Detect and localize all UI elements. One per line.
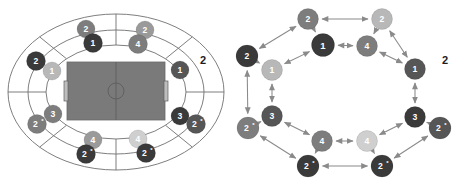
node-circle <box>262 60 283 81</box>
node-circle <box>372 9 393 30</box>
graph-edge-g8-g12 <box>285 122 310 134</box>
graph-edge-g2-g4 <box>374 31 375 34</box>
node-circle <box>312 34 335 57</box>
node-circle <box>28 115 47 134</box>
stadium-node-s15[interactable]: 2* <box>137 144 156 163</box>
stadium-panel: 212421132*32*42*42* 2 <box>0 0 232 185</box>
graph-edge-g9-g14 <box>260 136 296 158</box>
node-circle <box>371 155 393 177</box>
graph-node-g9[interactable]: 2* <box>237 117 259 139</box>
graph-node-g5[interactable]: 2 <box>236 45 258 67</box>
graph-edge-g5-g1 <box>259 26 296 48</box>
graph-edge-g1-g3 <box>315 31 316 32</box>
node-circle <box>77 145 96 164</box>
node-circle <box>357 36 378 57</box>
graph-node-g8[interactable]: 3 <box>262 106 283 127</box>
stadium-node-s13[interactable]: 2* <box>77 145 96 164</box>
stadium-free-labels: 2 <box>200 54 206 66</box>
graph-node-g1[interactable]: 2 <box>298 9 319 30</box>
node-circle <box>429 117 451 139</box>
stadium-pitch <box>64 62 168 120</box>
node-circle <box>357 131 378 152</box>
graph-node-g2[interactable]: 2 <box>372 9 393 30</box>
graph-edge-g3-g6 <box>285 52 310 64</box>
graph-node-g15[interactable]: 2* <box>371 155 393 177</box>
node-circle <box>187 115 206 134</box>
graph-edge-g8-g9 <box>259 122 260 123</box>
stadium-node-s5[interactable]: 2 <box>27 52 46 71</box>
graph-panel: 221421132*32*442*2* 2 <box>232 0 464 185</box>
stadium-node-s2[interactable]: 1 <box>84 34 103 53</box>
node-circle <box>405 107 426 128</box>
node-circle <box>171 61 189 79</box>
stadium-node-s11[interactable]: 2* <box>187 115 206 134</box>
stadium-free-label-sl1: 2 <box>200 54 206 66</box>
node-circle <box>129 35 148 54</box>
graph-node-g7[interactable]: 1 <box>405 59 426 80</box>
node-circle <box>236 45 258 67</box>
node-circle <box>171 107 189 125</box>
graph-edge-g4-g7 <box>380 52 403 63</box>
node-circle <box>237 117 259 139</box>
graph-node-g11[interactable]: 2* <box>429 117 451 139</box>
graph-nodes: 221421132*32*442*2* <box>236 9 451 178</box>
node-circle <box>405 59 426 80</box>
graph-edges <box>247 19 428 166</box>
node-circle <box>262 106 283 127</box>
graph-edge-g2-g7 <box>390 31 408 58</box>
graph-node-g10[interactable]: 3 <box>405 107 426 128</box>
pitch-goal-right <box>164 81 168 101</box>
stadium-node-s8[interactable]: 3 <box>44 105 62 123</box>
node-circle <box>27 52 46 71</box>
node-circle <box>44 105 62 123</box>
graph-node-g12[interactable]: 4 <box>312 131 333 152</box>
graph-edge-g11-g15 <box>394 136 428 158</box>
graph-edge-g10-g13 <box>380 123 403 134</box>
stadium-node-s4[interactable]: 4 <box>129 35 148 54</box>
graph-node-g6[interactable]: 1 <box>262 60 283 81</box>
graph-edge-g5-g9 <box>247 70 248 113</box>
node-circle <box>312 131 333 152</box>
graph-node-g13[interactable]: 4 <box>357 131 378 152</box>
node-circle <box>297 155 319 177</box>
node-circle <box>84 34 103 53</box>
stadium-node-s10[interactable]: 3 <box>171 107 189 125</box>
graph-node-g14[interactable]: 2* <box>297 155 319 177</box>
graph-node-g4[interactable]: 4 <box>357 36 378 57</box>
figure-root: 212421132*32*42*42* 2 221421132*32*442*2… <box>0 0 464 185</box>
stadium-diagram: 212421132*32*42*42* 2 <box>0 0 232 185</box>
ring-graph-diagram: 221421132*32*442*2* 2 <box>232 0 464 185</box>
graph-node-g3[interactable]: 1 <box>312 34 335 57</box>
node-circle <box>137 144 156 163</box>
stadium-node-s6[interactable]: 1 <box>43 62 61 80</box>
node-circle <box>298 9 319 30</box>
stadium-node-s9[interactable]: 2* <box>28 115 47 134</box>
stadium-node-s7[interactable]: 1 <box>171 61 189 79</box>
pitch-goal-left <box>64 81 68 101</box>
graph-free-labels: 2 <box>442 54 448 66</box>
graph-free-label-gl1: 2 <box>442 54 448 66</box>
node-circle <box>43 62 61 80</box>
stadium-divider-8 <box>165 37 192 59</box>
